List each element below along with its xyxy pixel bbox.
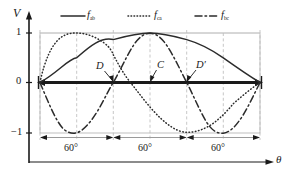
gridlines-vertical (40, 30, 260, 140)
legend-subscript-f-bc: bc (224, 15, 229, 21)
v-axis (26, 11, 32, 163)
annotation-label-D: D (96, 60, 104, 71)
y-axis-label: V (13, 6, 20, 21)
annotation-label-C: C (157, 59, 164, 70)
legend-label-f-ca: fca (154, 9, 162, 20)
y-tick-label-0: 0 (16, 75, 21, 86)
theta-axis (29, 159, 274, 165)
y-tick-label-1: 1 (16, 26, 21, 37)
y-tick-label-minus-1: −1 (11, 126, 22, 137)
x-span-label-3: 60° (211, 142, 225, 153)
x-span-label-2: 60° (138, 142, 152, 153)
legend-label-f-ab: fab (87, 9, 95, 20)
x-span-label-1: 60° (64, 142, 78, 153)
annotation-label-D-prime: D′ (196, 59, 206, 70)
legend-label-f-bc: fbc (221, 9, 229, 20)
legend-subscript-f-ab: ab (90, 15, 95, 21)
x-axis-label: θ (276, 153, 281, 165)
legend-subscript-f-ca: ca (157, 15, 162, 21)
